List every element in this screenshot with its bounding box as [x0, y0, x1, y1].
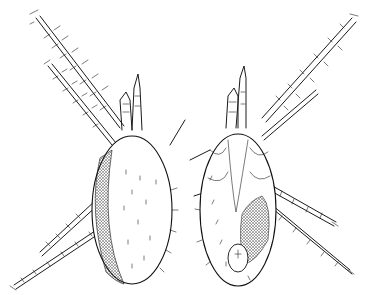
dorsal-mouthparts — [120, 74, 142, 130]
ventral-leg-setae — [276, 14, 358, 274]
ventral-mouthparts — [226, 66, 246, 128]
illustration-canvas — [0, 0, 370, 295]
mite-illustration — [0, 0, 370, 295]
dorsal-leg-setae — [10, 10, 108, 290]
dorsal-view-mite — [10, 10, 185, 290]
ventral-view-mite — [190, 14, 358, 286]
